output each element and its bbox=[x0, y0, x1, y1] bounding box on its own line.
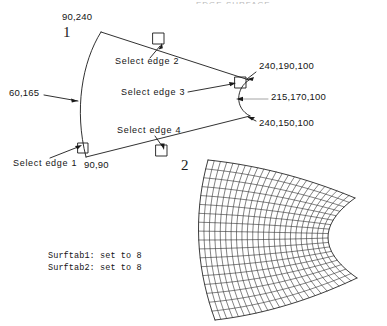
select-edge-1-label: Select edge 1 bbox=[13, 159, 77, 168]
mesh-line bbox=[201, 251, 331, 266]
select-edge-3-label: Select edge 3 bbox=[121, 88, 185, 97]
select-edge-2-label: Select edge 2 bbox=[115, 57, 179, 66]
surftab2-label: Surftab2: set to 8 bbox=[48, 262, 142, 274]
edge-surface-mesh bbox=[199, 160, 357, 320]
coord-label-right-mid: 215,170,100 bbox=[271, 92, 326, 102]
select-edge-4-label: Select edge 4 bbox=[117, 126, 181, 135]
coord-label-right-bottom: 240,150,100 bbox=[259, 118, 314, 128]
mesh-line bbox=[206, 169, 350, 203]
step-number-2: 2 bbox=[181, 158, 189, 174]
mesh-line bbox=[209, 269, 346, 302]
mesh-line bbox=[208, 160, 355, 198]
pick-box-edge-2 bbox=[153, 33, 164, 44]
mesh-line bbox=[328, 198, 357, 278]
arrowhead-coord-right-mid bbox=[236, 97, 243, 101]
leader-select-edge-3 bbox=[188, 84, 232, 92]
leader-select-edge-1 bbox=[50, 147, 78, 158]
edge-1-left-arc bbox=[80, 32, 101, 157]
coord-label-left-mid: 60,165 bbox=[9, 88, 39, 98]
coord-label-top-left: 90,240 bbox=[62, 12, 92, 22]
step-number-1: 1 bbox=[63, 25, 71, 41]
pick-box-edge-4 bbox=[156, 145, 167, 156]
surftab1-label: Surftab1: set to 8 bbox=[48, 250, 142, 262]
mesh-line bbox=[212, 274, 351, 312]
arrowhead-select-edge-1 bbox=[75, 145, 82, 150]
coord-label-right-top: 240,190,100 bbox=[259, 61, 314, 71]
coord-label-bottom-left: 90,90 bbox=[84, 160, 109, 170]
diagram-canvas: EDGE SURFACE bbox=[0, 0, 387, 326]
edge-4-bottom bbox=[86, 116, 250, 157]
arrowhead-select-edge-4 bbox=[160, 143, 164, 150]
